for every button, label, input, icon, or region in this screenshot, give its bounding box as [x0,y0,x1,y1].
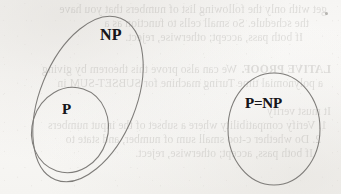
np-set-ellipse [11,0,165,194]
p-vs-np-diagram: NP P P=NP [0,0,341,194]
p-equals-np-set-ellipse [228,73,320,185]
p-set-ellipse [21,77,120,182]
np-set-label: NP [100,26,122,44]
scanned-page: get with only the following list of numb… [0,0,341,194]
p-set-label: P [62,101,71,118]
p-equals-np-label: P=NP [245,95,282,112]
